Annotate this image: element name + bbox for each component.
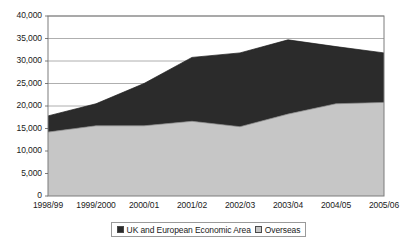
legend-swatch-overseas bbox=[255, 226, 262, 233]
y-axis-tick-label: 5,000 bbox=[0, 168, 42, 178]
x-axis-tick-label: 1998/99 bbox=[21, 200, 75, 210]
legend-label-overseas: Overseas bbox=[265, 225, 301, 235]
legend-swatch-uk-eea bbox=[117, 226, 124, 233]
y-axis-tick-label: 30,000 bbox=[0, 55, 42, 65]
x-axis-tick-label: 2004/05 bbox=[309, 200, 363, 210]
y-axis-tick-label: 40,000 bbox=[0, 10, 42, 20]
legend-item-overseas: Overseas bbox=[255, 225, 301, 235]
x-axis-tick-label: 1999/2000 bbox=[69, 200, 123, 210]
y-axis-tick-label: 20,000 bbox=[0, 100, 42, 110]
y-axis-tick-label: 15,000 bbox=[0, 123, 42, 133]
x-axis-tick-label: 2001/02 bbox=[165, 200, 219, 210]
x-axis-tick-label: 2000/01 bbox=[117, 200, 171, 210]
legend-item-uk-eea: UK and European Economic Area bbox=[117, 225, 251, 235]
y-axis-tick-label: 25,000 bbox=[0, 78, 42, 88]
y-axis-tick-label: 10,000 bbox=[0, 145, 42, 155]
legend-label-uk-eea: UK and European Economic Area bbox=[127, 225, 251, 235]
x-axis-tick-label: 2005/06 bbox=[357, 200, 411, 210]
chart-legend: UK and European Economic Area Overseas bbox=[111, 222, 307, 237]
x-axis-tick-label: 2002/03 bbox=[213, 200, 267, 210]
area-chart: 05,00010,00015,00020,00025,00030,00035,0… bbox=[0, 0, 417, 249]
y-axis-tick-label: 0 bbox=[0, 190, 42, 200]
y-axis-tick-label: 35,000 bbox=[0, 33, 42, 43]
chart-plot-area bbox=[0, 0, 417, 249]
x-axis-tick-label: 2003/04 bbox=[261, 200, 315, 210]
